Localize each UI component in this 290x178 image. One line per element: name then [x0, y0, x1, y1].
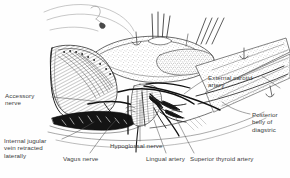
figure-canvas: Accessory nerve Internal jugular vein re… [0, 0, 290, 178]
label-superior-thyroid-artery: Superior thyroid artery [190, 155, 266, 162]
label-internal-jugular-vein: Internal jugular vein retracted laterall… [4, 137, 58, 159]
internal-jugular-vein [52, 111, 138, 130]
label-posterior-belly-of-digastric: Posterior belly of diagstric [252, 111, 290, 133]
chin-contour-lines [44, 5, 134, 37]
label-lingual-artery: Lingual artery [146, 155, 190, 162]
label-accessory-nerve: Accessory nerve [5, 92, 51, 107]
label-external-carotid-artery: External carotid artery [208, 74, 266, 89]
chin-shadow [99, 23, 105, 29]
omohyoid-muscle [150, 112, 212, 128]
label-hypoglossal-nerve: Hypoglossal nerve [110, 142, 168, 149]
label-vagus-nerve: Vagus nerve [63, 155, 111, 162]
retractor-prongs-right [196, 18, 224, 44]
